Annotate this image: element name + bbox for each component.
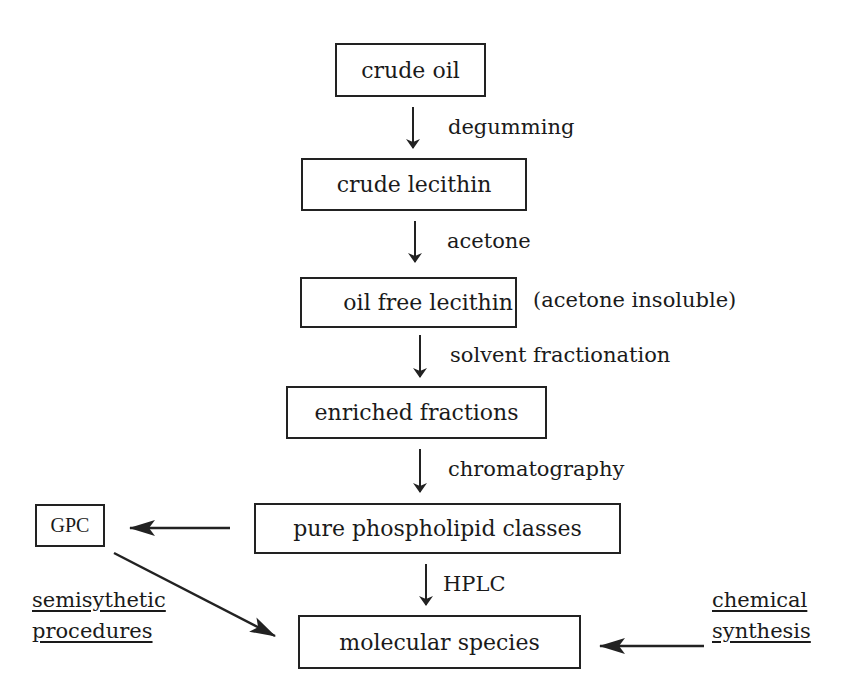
process-label-hplc: HPLC bbox=[443, 574, 505, 595]
node-label: pure phospholipid classes bbox=[293, 516, 582, 541]
node-gpc: GPC bbox=[35, 504, 105, 547]
process-label-acetone: acetone bbox=[447, 231, 531, 252]
process-label-solvent-fractionation: solvent fractionation bbox=[450, 345, 670, 366]
node-pure-phospholipid-classes: pure phospholipid classes bbox=[254, 503, 621, 554]
chemical-synthesis-line2: synthesis bbox=[712, 621, 811, 642]
node-label: crude oil bbox=[361, 58, 459, 83]
process-label-degumming: degumming bbox=[448, 117, 574, 138]
node-molecular-species: molecular species bbox=[298, 615, 581, 669]
node-crude-lecithin: crude lecithin bbox=[301, 158, 527, 211]
semisynthetic-line2: procedures bbox=[32, 621, 153, 642]
process-label-chromatography: chromatography bbox=[448, 459, 624, 480]
node-crude-oil: crude oil bbox=[335, 43, 486, 97]
semisynthetic-line1: semisythetic bbox=[32, 590, 166, 611]
node-label: molecular species bbox=[339, 630, 539, 655]
node-label: enriched fractions bbox=[314, 400, 518, 425]
note-acetone-insoluble: (acetone insoluble) bbox=[533, 290, 736, 311]
chemical-synthesis-line1: chemical bbox=[712, 590, 807, 611]
node-label: oil free lecithin bbox=[343, 290, 513, 315]
node-oil-free-lecithin: oil free lecithin bbox=[300, 277, 517, 328]
node-label: crude lecithin bbox=[337, 172, 492, 197]
node-label: GPC bbox=[51, 514, 90, 537]
node-enriched-fractions: enriched fractions bbox=[286, 386, 547, 439]
